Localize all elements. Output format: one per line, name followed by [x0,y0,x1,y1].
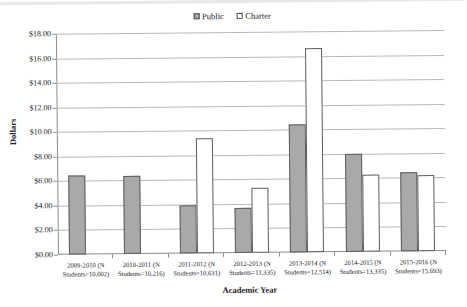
x-axis-category-label-line: Students=11,335) [224,268,280,278]
bar-charter [195,138,213,253]
x-axis-category-label-line: Students=13,335) [335,266,391,276]
bar-charter [251,188,269,253]
x-axis-tick-mark [223,253,224,257]
x-axis-tick-mark [390,251,391,255]
legend-item-charter: Charter [237,11,271,21]
x-axis-category-label: 2012-2013 (NStudents=11,335) [224,259,280,278]
bar-charter [362,174,380,252]
legend-label-public: Public [202,11,224,21]
y-axis-tick-label: $14.00 [29,78,51,87]
plot-area: $18.00$16.00$14.00$12.00$10.00$8.00$6.00… [56,30,446,255]
chart-legend: Public Charter [0,9,466,23]
bar-public [235,207,252,253]
x-axis-tick-mark [112,254,113,258]
x-axis-tick-mark [445,251,446,255]
y-axis-tick-label: $0.00 [35,250,53,259]
bar-groups [56,30,446,255]
x-axis-category-label-line: Students=10,216) [114,269,170,279]
bar-group [333,30,391,252]
y-axis-title: Dollars [8,119,18,146]
x-axis-labels: 2009-2010 (NStudents=10,002)2010-2011 (N… [58,257,446,279]
bar-public [68,175,86,254]
bar-group [167,32,225,254]
legend-swatch-charter-icon [237,13,243,19]
bar-charter [305,48,324,253]
bar-group [56,33,114,255]
y-axis-tick-label: $4.00 [34,201,52,210]
x-axis-category-label: 2014-2015 (NStudents=13,335) [335,257,391,276]
bar-public [179,205,196,253]
y-axis-tick-mark [54,255,58,256]
bar-charter [417,175,435,251]
x-axis-tick-mark [334,252,335,256]
bar-public [123,176,141,254]
y-axis-tick-label: $16.00 [29,54,51,63]
x-axis-category-label-line: Students=12,514) [280,267,336,277]
bar-public [289,124,307,252]
x-axis-category-label: 2010-2011 (NStudents=10,216) [113,260,169,279]
x-axis-tick-mark [168,254,169,258]
y-axis-tick-label: $10.00 [30,127,52,136]
x-axis-category-label-line: Students=10,631) [169,268,225,278]
y-axis-tick-label: $8.00 [34,152,52,161]
scan-edge-artifact [0,0,466,5]
bar-group [278,31,336,253]
bar-group [388,30,446,252]
x-axis-category-label-line: Students=15,693) [391,266,447,276]
y-axis-tick-label: $18.00 [29,29,51,38]
legend-item-public: Public [194,11,224,21]
bar-group [222,32,280,254]
bar-public [400,172,418,251]
x-axis-category-label: 2009-2010 (NStudents=10,002) [58,260,114,279]
x-axis-category-label: 2013-2014 (NStudents=12,514) [280,258,336,277]
y-axis-tick-label: $6.00 [34,177,52,186]
x-axis-title: Academic Year [1,283,467,297]
x-axis-tick-mark [279,253,280,257]
scanned-chart-page: Public Charter Dollars $18.00$16.00$14.0… [0,0,467,307]
x-axis-category-label-line: Students=10,002) [58,269,114,279]
y-axis-tick-label: $12.00 [30,103,52,112]
legend-swatch-public-icon [194,13,200,19]
x-axis-category-label: 2011-2012 (NStudents=10,631) [169,259,225,278]
bar-public [345,154,363,252]
x-axis-category-label: 2015-2016 (NStudents=15,693) [391,257,447,276]
legend-label-charter: Charter [245,11,271,21]
y-axis-tick-label: $2.00 [35,226,53,235]
bar-group [111,33,169,255]
